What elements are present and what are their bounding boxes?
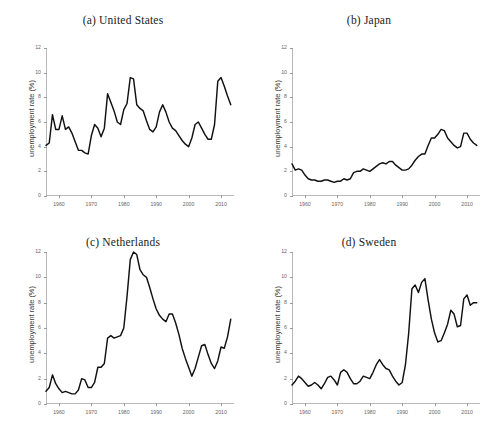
panel-japan: (b) Japan unemployment rate (%) 02468101… <box>246 0 492 222</box>
x-tick-label: 1960 <box>48 201 70 207</box>
y-tick-label: 4 <box>38 349 41 355</box>
y-tick-label: 4 <box>284 349 287 355</box>
y-tick-label: 12 <box>35 248 41 254</box>
plot-area-netherlands: unemployment rate (%) 024681012 19601970… <box>46 252 234 404</box>
y-tick-mark <box>290 404 293 405</box>
y-tick-mark <box>290 196 293 197</box>
x-tick-label: 1990 <box>391 201 413 207</box>
x-tick-label: 1970 <box>80 201 102 207</box>
x-tick-label: 2010 <box>210 201 232 207</box>
y-tick-mark <box>44 196 47 197</box>
panel-netherlands: (c) Netherlands unemployment rate (%) 02… <box>0 222 246 445</box>
plot-area-sweden: unemployment rate (%) 024681012 19601970… <box>292 252 480 404</box>
y-tick-label: 2 <box>38 375 41 381</box>
y-tick-label: 8 <box>38 299 41 305</box>
series-line-sweden <box>292 252 480 404</box>
x-tick-label: 2000 <box>178 409 200 415</box>
y-tick-label: 0 <box>38 400 41 406</box>
y-tick-label: 0 <box>38 192 41 198</box>
x-tick-label: 1970 <box>80 409 102 415</box>
y-tick-label: 0 <box>284 192 287 198</box>
x-tick-label: 1960 <box>48 409 70 415</box>
series-line-netherlands <box>46 252 234 404</box>
x-tick-label: 2010 <box>456 201 478 207</box>
y-tick-label: 8 <box>38 93 41 99</box>
y-tick-label: 6 <box>38 118 41 124</box>
x-tick-label: 1980 <box>359 409 381 415</box>
x-tick-label: 1970 <box>326 409 348 415</box>
y-tick-mark <box>44 404 47 405</box>
y-tick-label: 8 <box>284 93 287 99</box>
y-tick-label: 6 <box>284 324 287 330</box>
x-tick-label: 2000 <box>178 201 200 207</box>
x-tick-label: 1990 <box>391 409 413 415</box>
panel-title-sweden: (d) Sweden <box>246 236 492 248</box>
panel-united-states: (a) United States unemployment rate (%) … <box>0 0 246 222</box>
y-tick-label: 10 <box>281 69 287 75</box>
y-tick-label: 12 <box>35 44 41 50</box>
y-axis-label-united-states: unemployment rate (%) <box>27 44 36 194</box>
series-line-united-states <box>46 48 234 196</box>
y-tick-label: 10 <box>35 273 41 279</box>
x-tick-label: 2000 <box>424 201 446 207</box>
x-tick-label: 1980 <box>113 201 135 207</box>
y-axis-label-netherlands: unemployment rate (%) <box>27 250 36 400</box>
y-tick-label: 6 <box>38 324 41 330</box>
panel-title-united-states: (a) United States <box>0 14 246 26</box>
y-tick-label: 0 <box>284 400 287 406</box>
x-tick-label: 2010 <box>456 409 478 415</box>
y-axis-label-sweden: unemployment rate (%) <box>273 250 282 400</box>
y-tick-label: 4 <box>284 143 287 149</box>
x-tick-label: 1960 <box>294 201 316 207</box>
x-tick-label: 1990 <box>145 409 167 415</box>
x-tick-label: 1970 <box>326 201 348 207</box>
unemployment-rate-figure: (a) United States unemployment rate (%) … <box>0 0 492 445</box>
y-tick-label: 8 <box>284 299 287 305</box>
x-tick-label: 2010 <box>210 409 232 415</box>
y-tick-label: 4 <box>38 143 41 149</box>
x-tick-label: 1960 <box>294 409 316 415</box>
y-tick-label: 2 <box>38 167 41 173</box>
series-line-japan <box>292 48 480 196</box>
plot-area-japan: unemployment rate (%) 024681012 19601970… <box>292 48 480 196</box>
y-tick-label: 12 <box>281 44 287 50</box>
x-tick-label: 2000 <box>424 409 446 415</box>
y-tick-label: 2 <box>284 375 287 381</box>
x-tick-label: 1990 <box>145 201 167 207</box>
y-tick-label: 6 <box>284 118 287 124</box>
y-axis-label-japan: unemployment rate (%) <box>273 44 282 194</box>
panel-title-netherlands: (c) Netherlands <box>0 236 246 248</box>
y-tick-label: 2 <box>284 167 287 173</box>
y-tick-label: 12 <box>281 248 287 254</box>
y-tick-label: 10 <box>35 69 41 75</box>
plot-area-united-states: unemployment rate (%) 024681012 19601970… <box>46 48 234 196</box>
y-tick-label: 10 <box>281 273 287 279</box>
panel-title-japan: (b) Japan <box>246 14 492 26</box>
panel-sweden: (d) Sweden unemployment rate (%) 0246810… <box>246 222 492 445</box>
x-tick-label: 1980 <box>359 201 381 207</box>
x-tick-label: 1980 <box>113 409 135 415</box>
